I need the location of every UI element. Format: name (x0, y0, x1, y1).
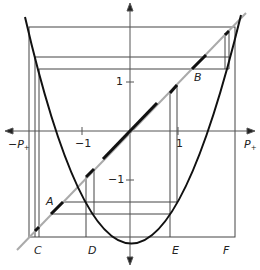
axis-label-neg-p: −P+ (8, 139, 30, 152)
axis-label-p: P+ (244, 139, 257, 152)
point-label-d: D (88, 245, 96, 256)
point-label-e: E (172, 245, 179, 256)
tick-label-x-pos1: 1 (176, 138, 183, 149)
cobweb-diagram (0, 0, 260, 270)
tick-label-y-pos1: 1 (116, 76, 123, 87)
tick-label-x-neg1: −1 (75, 138, 91, 149)
point-label-f: F (223, 245, 229, 256)
point-label-c: C (34, 245, 42, 256)
axis-label-neg-p-text: −P (8, 138, 24, 151)
tick-label-y-neg1: −1 (108, 174, 124, 185)
axis-subscript-left: + (24, 144, 30, 152)
point-label-b: B (194, 72, 202, 83)
axis-subscript-right: + (251, 144, 257, 152)
point-label-a: A (46, 196, 54, 207)
axis-label-p-text: P (244, 138, 251, 151)
